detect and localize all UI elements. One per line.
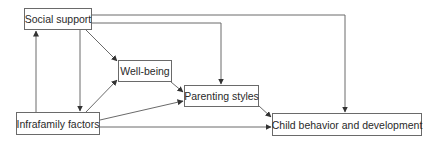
node-label: Social support — [25, 13, 92, 25]
edge-parenting-to-child — [259, 106, 271, 117]
node-label: Parenting styles — [184, 90, 259, 102]
node-label: Child behavior and development — [272, 119, 423, 131]
edge-infrafamily-to-parenting — [100, 101, 183, 120]
node-infrafamily-factors: Infrafamily factors — [16, 112, 100, 135]
node-label: Well-being — [120, 65, 169, 77]
node-label: Infrafamily factors — [17, 118, 100, 130]
node-well-being: Well-being — [118, 60, 172, 82]
edge-infrafamily-to-wellbeing — [86, 80, 117, 112]
node-parenting-styles: Parenting styles — [184, 85, 259, 107]
node-child-behavior: Child behavior and development — [272, 113, 422, 136]
node-social-support: Social support — [24, 8, 92, 30]
edge-wellbeing-to-parenting — [171, 82, 183, 92]
edge-social-to-wellbeing — [86, 30, 117, 61]
